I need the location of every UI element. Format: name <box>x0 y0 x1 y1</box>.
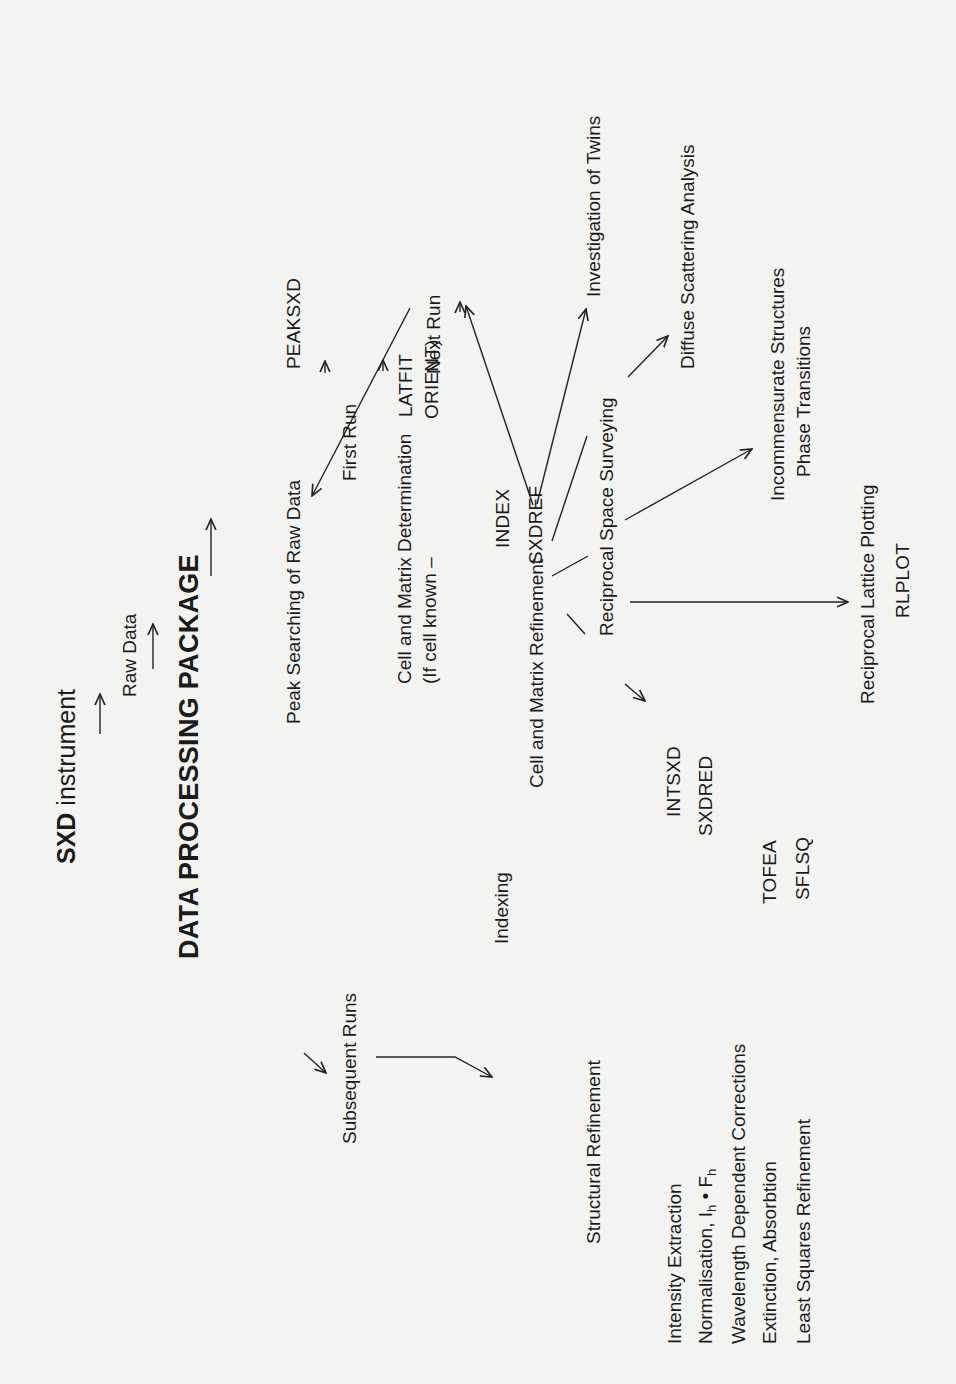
flow-diagram: SXD instrument Raw Data DATA PROCESSING … <box>0 0 956 1384</box>
stage-first-run: First Run <box>340 404 359 481</box>
stage-peak-searching: Peak Searching of Raw Data <box>284 480 303 724</box>
stage-reciprocal-space-surveying: Reciprocal Space Surveying <box>597 397 616 636</box>
diagram-title: DATA PROCESSING PACKAGE <box>176 554 203 959</box>
outcome-reciprocal-lattice-plotting: Reciprocal Lattice Plotting <box>858 484 877 704</box>
step-intensity-extraction: Intensity Extraction <box>665 1183 684 1344</box>
stage-cell-matrix-refinement: Cell and Matrix Refinement <box>527 559 546 788</box>
program-index: INDEX <box>493 489 512 548</box>
step-extinction-absorbtion: Extinction, Absorbtion <box>760 1161 779 1344</box>
outcome-investigation-of-twins: Investigation of Twins <box>584 116 603 297</box>
program-tofea: TOFEA <box>760 840 779 904</box>
stage-subsequent-runs: Subsequent Runs <box>340 993 359 1144</box>
stage-structural-refinement: Structural Refinement <box>584 1060 603 1244</box>
outcome-diffuse-scattering: Diffuse Scattering Analysis <box>678 144 697 369</box>
program-sxdref: SXDREF <box>526 486 545 564</box>
stage-cell-matrix-determination: Cell and Matrix Determination <box>395 434 414 684</box>
program-peaksxd: PEAKSXD <box>284 278 303 369</box>
stage-if-cell-known: (If cell known – <box>420 557 439 684</box>
step-wavelength-corrections: Wavelength Dependent Corrections <box>729 1044 748 1344</box>
outcome-phase-transitions: Phase Transitions <box>794 326 813 477</box>
step-least-squares: Least Squares Refinement <box>794 1119 813 1344</box>
program-sflsq: SFLSQ <box>793 837 812 900</box>
step-normalisation: Normalisation, Ih • Fh <box>696 1169 718 1344</box>
raw-data-label: Raw Data <box>120 614 139 697</box>
stage-indexing: Indexing <box>492 872 511 944</box>
page: SXD instrument Raw Data DATA PROCESSING … <box>0 0 956 1384</box>
stage-next-run: Next Run <box>424 295 443 374</box>
instrument-label: SXD instrument <box>54 689 79 864</box>
program-rlplot: RLPLOT <box>893 543 912 618</box>
program-intsxd: INTSXD <box>664 746 683 817</box>
outcome-incommensurate-structures: Incommensurate Structures <box>768 268 787 501</box>
program-latfit: LATFIT <box>396 354 415 417</box>
program-sxdred: SXDRED <box>696 756 715 836</box>
